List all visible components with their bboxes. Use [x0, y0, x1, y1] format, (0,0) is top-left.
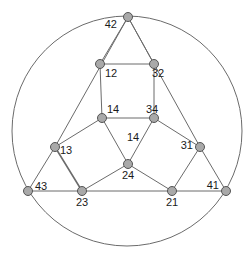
- graph-node-label-42: 42: [105, 18, 117, 30]
- edge-labels-layer: 14: [127, 131, 139, 143]
- graph-edge-13-14: [55, 118, 102, 147]
- graph-node-label-12: 12: [105, 67, 117, 79]
- graph-edge-21-31: [172, 147, 200, 191]
- graph-node-42[interactable]: [124, 13, 133, 22]
- graph-edge-14-24: [102, 118, 128, 164]
- graph-node-14[interactable]: [98, 114, 107, 123]
- node-labels-layer: 421232143413312443232141: [35, 18, 219, 208]
- graph-node-label-24: 24: [122, 169, 134, 181]
- graph-edge-24-21: [128, 164, 172, 191]
- graph-edge-12-14: [100, 64, 102, 118]
- graph-edge-label-0: 14: [127, 131, 139, 143]
- graph-node-label-23: 23: [76, 196, 88, 208]
- graph-node-21[interactable]: [168, 187, 177, 196]
- graph-node-label-13: 13: [60, 144, 72, 156]
- graph-node-label-41: 41: [207, 179, 219, 191]
- graph-node-label-21: 21: [166, 196, 178, 208]
- graph-edge-34-31: [154, 118, 200, 147]
- graph-node-label-34: 34: [146, 103, 158, 115]
- graph-node-label-14: 14: [107, 103, 119, 115]
- graph-node-label-32: 32: [152, 67, 164, 79]
- graph-node-24[interactable]: [124, 160, 133, 169]
- graph-node-23[interactable]: [78, 187, 87, 196]
- graph-node-41[interactable]: [222, 187, 231, 196]
- graph-node-43[interactable]: [24, 187, 33, 196]
- graph-edge-42-31: [128, 17, 200, 147]
- graph-figure: 421232143413312443232141 14: [0, 0, 252, 261]
- graph-node-label-43: 43: [35, 180, 47, 192]
- graph-canvas: 421232143413312443232141 14: [0, 0, 252, 261]
- graph-node-label-31: 31: [181, 139, 193, 151]
- graph-edge-42-13: [55, 17, 128, 147]
- graph-node-12[interactable]: [96, 60, 105, 69]
- graph-node-31[interactable]: [196, 143, 205, 152]
- graph-node-13[interactable]: [51, 143, 60, 152]
